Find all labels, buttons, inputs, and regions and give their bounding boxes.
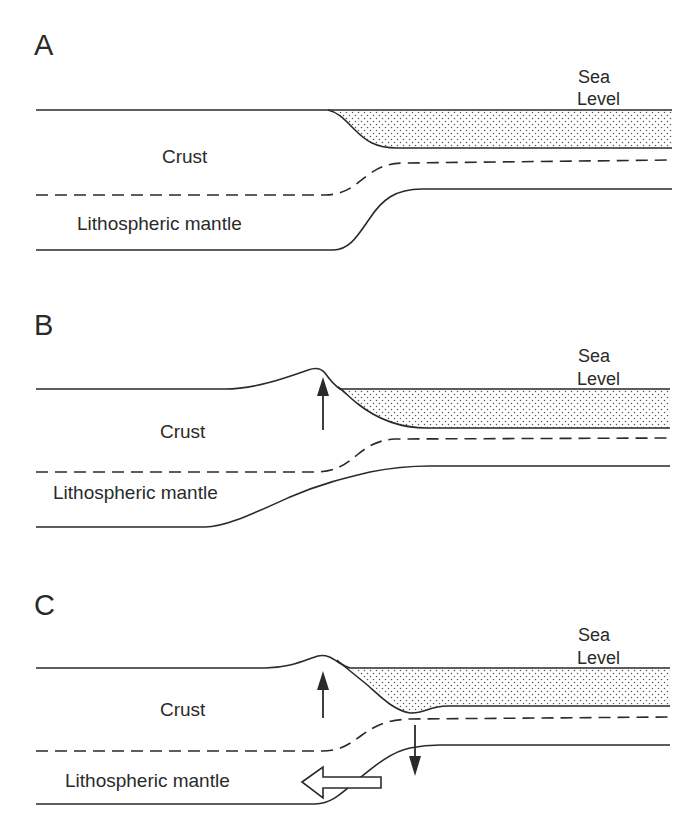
panel-b: B Sea Level Crust Lithospheric mantle	[34, 309, 670, 527]
crust-base-dashed-line	[36, 438, 670, 472]
land-surface-line	[36, 368, 670, 389]
panel-letter-a: A	[34, 29, 54, 61]
crust-label: Crust	[160, 699, 206, 720]
panel-letter-c: C	[34, 589, 55, 621]
sea-label-line1: Sea	[578, 67, 611, 87]
panel-a: A Sea Level Crust Lithospheric mantle	[34, 29, 672, 250]
ocean-water	[328, 110, 672, 148]
sea-label-line2: Level	[577, 648, 620, 668]
uplift-arrow-up-icon	[317, 377, 329, 430]
crust-label: Crust	[162, 146, 208, 167]
land-surface-line	[36, 655, 670, 668]
sea-label-line2: Level	[577, 89, 620, 109]
mantle-label: Lithospheric mantle	[65, 770, 230, 791]
sea-label-line2: Level	[577, 369, 620, 389]
crust-base-dashed-line	[36, 717, 670, 751]
crust-label: Crust	[160, 421, 206, 442]
panel-letter-b: B	[34, 309, 53, 341]
subsidence-arrow-down-icon	[409, 725, 421, 776]
mantle-label: Lithospheric mantle	[53, 482, 218, 503]
sea-label-line1: Sea	[578, 346, 611, 366]
uplift-arrow-up-icon	[317, 671, 329, 718]
panel-c: C Sea Level Crust Lithospheric mantle	[34, 589, 670, 804]
margin-evolution-diagram: A Sea Level Crust Lithospheric mantle B …	[0, 0, 695, 831]
mantle-label: Lithospheric mantle	[77, 213, 242, 234]
sea-label-line1: Sea	[578, 625, 611, 645]
